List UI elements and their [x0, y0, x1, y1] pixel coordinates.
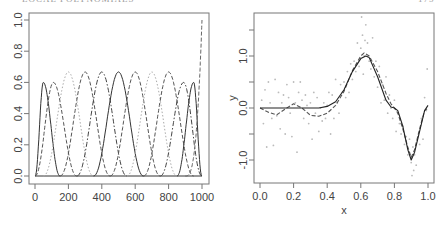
data-point: [289, 112, 291, 114]
x-tick-label: 1000: [190, 191, 214, 203]
data-point: [301, 99, 303, 101]
data-point: [323, 102, 325, 104]
data-point: [330, 133, 332, 135]
y-tick-label: 0.4: [12, 106, 24, 121]
right-plot-frame: [254, 13, 434, 183]
data-point: [360, 47, 362, 49]
data-point: [409, 138, 411, 140]
true-function-curve: [260, 56, 428, 160]
data-point: [273, 145, 275, 147]
data-point: [310, 102, 312, 104]
data-point: [392, 118, 394, 120]
data-point: [347, 71, 349, 73]
x-axis-title: x: [341, 204, 347, 216]
data-point: [426, 68, 428, 70]
data-point: [303, 118, 305, 120]
y-tick-label: -1.0: [237, 151, 249, 170]
data-point: [305, 94, 307, 96]
x-tick-label: 400: [93, 191, 111, 203]
data-point: [316, 97, 318, 99]
data-point: [328, 92, 330, 94]
data-point: [422, 138, 424, 140]
data-point: [271, 118, 273, 120]
y-tick-label: 1.0: [237, 48, 249, 63]
data-point: [315, 112, 317, 114]
data-point: [283, 94, 285, 96]
y-tick-label: 0.8: [12, 44, 24, 59]
data-point: [279, 128, 281, 130]
data-point: [269, 102, 271, 104]
data-point: [385, 76, 387, 78]
x-tick-label: 0.6: [353, 190, 368, 202]
data-point: [353, 60, 355, 62]
data-point: [412, 146, 414, 148]
data-point: [333, 118, 335, 120]
x-tick-label: 0.4: [320, 190, 335, 202]
basis-6-curve: [94, 72, 144, 176]
spline-fit-curve: [260, 53, 428, 157]
data-point: [291, 136, 293, 138]
data-point: [294, 102, 296, 104]
data-point: [299, 81, 301, 83]
basis-1-curve: [35, 82, 60, 176]
data-point: [367, 42, 369, 44]
data-point: [368, 60, 370, 62]
data-point: [296, 151, 298, 153]
data-point: [293, 81, 295, 83]
data-point: [362, 34, 364, 36]
data-point: [281, 102, 283, 104]
data-point: [345, 97, 347, 99]
smoothing-fit-plot: 0.00.20.40.60.81.0 -1.00.01.0 x y: [226, 13, 436, 216]
data-point: [288, 97, 290, 99]
data-point: [420, 118, 422, 120]
y-tick-label: 0.0: [237, 100, 249, 115]
data-point: [325, 118, 327, 120]
data-point: [380, 102, 382, 104]
data-point: [383, 99, 385, 101]
data-point: [413, 170, 415, 172]
data-point: [264, 89, 266, 91]
data-point: [306, 105, 308, 107]
data-point: [358, 66, 360, 68]
data-point: [362, 73, 364, 75]
data-point: [411, 175, 413, 177]
x-tick-label: 0.0: [252, 190, 267, 202]
data-point: [364, 40, 366, 42]
data-point: [407, 154, 409, 156]
data-point: [373, 76, 375, 78]
data-point: [404, 144, 406, 146]
x-tick-label: 0: [32, 191, 38, 203]
x-tick-label: 1.0: [420, 190, 435, 202]
x-tick-label: 800: [159, 191, 177, 203]
data-point: [311, 138, 313, 140]
data-point: [313, 92, 315, 94]
y-tick-label: 0.2: [12, 137, 24, 152]
data-point: [318, 131, 320, 133]
data-point: [410, 162, 412, 164]
data-point: [370, 68, 372, 70]
x-tick-label: 0.8: [387, 190, 402, 202]
data-point: [343, 81, 345, 83]
data-point: [352, 79, 354, 81]
data-point: [355, 71, 357, 73]
data-point: [375, 60, 377, 62]
data-point: [419, 144, 421, 146]
data-point: [378, 66, 380, 68]
data-point: [308, 123, 310, 125]
basis-11-curve: [177, 82, 202, 176]
y-tick-label: 1.0: [12, 12, 24, 27]
data-point: [400, 133, 402, 135]
data-point: [331, 94, 333, 96]
basis-7-curve: [110, 72, 160, 176]
data-point: [338, 112, 340, 114]
y-axis-title: y: [226, 95, 238, 101]
data-point: [335, 79, 337, 81]
x-tick-label: 600: [126, 191, 144, 203]
data-point: [268, 81, 270, 83]
data-point: [298, 92, 300, 94]
data-point: [387, 112, 389, 114]
data-point: [377, 86, 379, 88]
right-y-axis: -1.00.01.0: [237, 30, 254, 169]
left-y-axis: 0.00.20.40.60.81.0: [12, 12, 29, 183]
data-point: [286, 84, 288, 86]
